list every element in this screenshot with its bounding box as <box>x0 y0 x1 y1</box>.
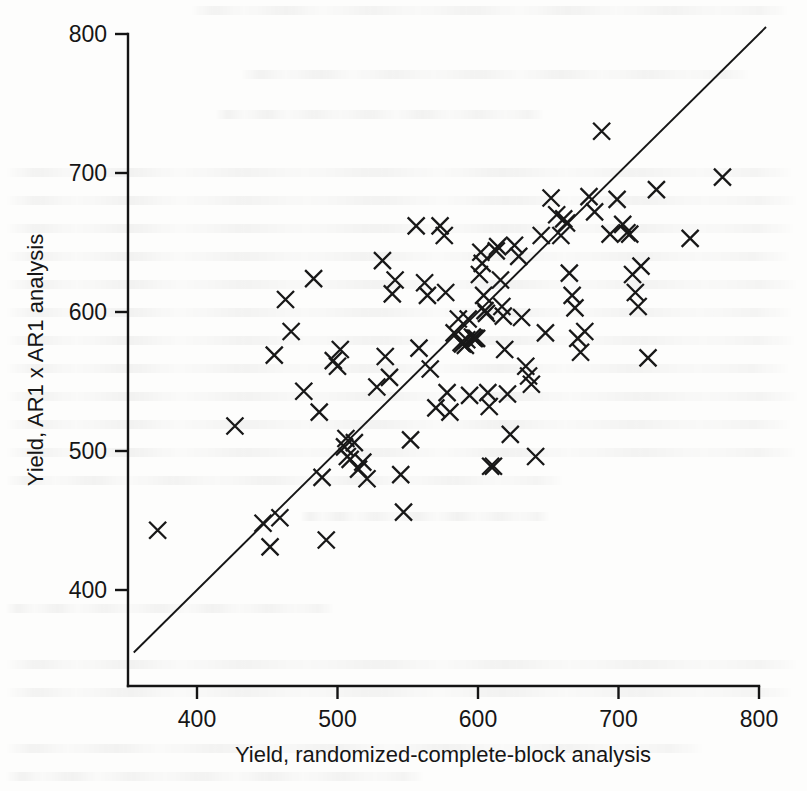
x-cross-marker <box>572 344 589 361</box>
x-cross-marker <box>441 404 458 421</box>
x-cross-marker <box>566 299 583 316</box>
y-tick-label: 500 <box>69 438 107 464</box>
x-cross-marker <box>311 404 328 421</box>
x-axis-tick-labels: 400500600700800 <box>178 706 778 732</box>
x-cross-marker <box>408 217 425 234</box>
x-cross-marker <box>478 305 495 322</box>
x-cross-marker <box>450 310 467 327</box>
x-cross-marker <box>609 191 626 208</box>
x-cross-marker <box>354 454 371 471</box>
x-cross-marker <box>262 538 279 555</box>
x-cross-marker <box>439 384 456 401</box>
x-cross-marker <box>295 383 312 400</box>
x-cross-marker <box>537 324 554 341</box>
y-axis-tick-marks <box>115 34 128 590</box>
x-cross-marker <box>410 340 427 357</box>
scanned-figure-page: 400500600700800 400500600700800 Yield, r… <box>0 0 807 791</box>
x-cross-marker <box>543 190 560 207</box>
x-cross-marker <box>416 274 433 291</box>
x-tick-label: 400 <box>178 706 216 732</box>
x-cross-marker <box>255 515 272 532</box>
x-cross-marker <box>496 341 513 358</box>
x-cross-marker <box>630 298 647 315</box>
x-cross-marker <box>226 417 243 434</box>
x-cross-marker <box>314 469 331 486</box>
x-cross-marker <box>266 347 283 364</box>
scatter-data-points <box>149 123 731 556</box>
x-cross-marker <box>714 169 731 186</box>
x-cross-marker <box>485 458 502 475</box>
x-cross-marker <box>640 349 657 366</box>
x-cross-marker <box>499 386 516 403</box>
x-cross-marker <box>271 509 288 526</box>
x-axis-title: Yield, randomized-complete-block analysi… <box>235 742 651 767</box>
x-cross-marker <box>395 504 412 521</box>
y-tick-label: 600 <box>69 299 107 325</box>
x-tick-label: 800 <box>740 706 778 732</box>
x-cross-marker <box>305 270 322 287</box>
x-cross-marker <box>602 226 619 243</box>
y-tick-label: 400 <box>69 577 107 603</box>
y-axis-title: Yield, AR1 x AR1 analysis <box>23 234 48 486</box>
x-cross-marker <box>632 258 649 275</box>
x-cross-marker <box>377 348 394 365</box>
x-cross-marker <box>461 387 478 404</box>
x-cross-marker <box>475 287 492 304</box>
x-tick-label: 500 <box>318 706 356 732</box>
x-cross-marker <box>492 272 509 289</box>
x-cross-marker <box>576 323 593 340</box>
x-cross-marker <box>277 291 294 308</box>
x-tick-label: 600 <box>459 706 497 732</box>
x-cross-marker <box>482 458 499 475</box>
x-cross-marker <box>682 230 699 247</box>
x-tick-label: 700 <box>599 706 637 732</box>
x-cross-marker <box>392 466 409 483</box>
y-axis-tick-labels: 400500600700800 <box>69 21 107 603</box>
x-cross-marker <box>495 308 512 325</box>
x-cross-marker <box>481 398 498 415</box>
x-cross-marker <box>387 272 404 289</box>
x-cross-marker <box>332 341 349 358</box>
one-to-one-reference-line <box>134 27 766 653</box>
x-cross-marker <box>564 287 581 304</box>
y-tick-label: 700 <box>69 160 107 186</box>
x-cross-marker <box>427 399 444 416</box>
x-cross-marker <box>527 448 544 465</box>
x-cross-marker <box>460 310 477 327</box>
x-cross-marker <box>648 181 665 198</box>
x-cross-marker <box>329 358 346 375</box>
x-axis-tick-marks <box>197 686 759 699</box>
x-cross-marker <box>149 522 166 539</box>
x-cross-marker <box>471 266 488 283</box>
y-tick-label: 800 <box>69 21 107 47</box>
x-cross-marker <box>381 369 398 386</box>
x-cross-marker <box>422 360 439 377</box>
x-cross-marker <box>586 203 603 220</box>
x-cross-marker <box>561 265 578 282</box>
x-cross-marker <box>359 470 376 487</box>
x-cross-marker <box>513 309 530 326</box>
x-cross-marker <box>283 323 300 340</box>
x-cross-marker <box>368 379 385 396</box>
x-cross-marker <box>419 287 436 304</box>
x-cross-marker <box>318 531 335 548</box>
x-cross-marker <box>502 426 519 443</box>
scatter-plot-figure: 400500600700800 400500600700800 Yield, r… <box>0 0 807 791</box>
x-cross-marker <box>593 123 610 140</box>
x-cross-marker <box>533 227 550 244</box>
x-cross-marker <box>621 226 638 243</box>
x-cross-marker <box>402 431 419 448</box>
x-cross-marker <box>374 252 391 269</box>
x-cross-marker <box>437 284 454 301</box>
